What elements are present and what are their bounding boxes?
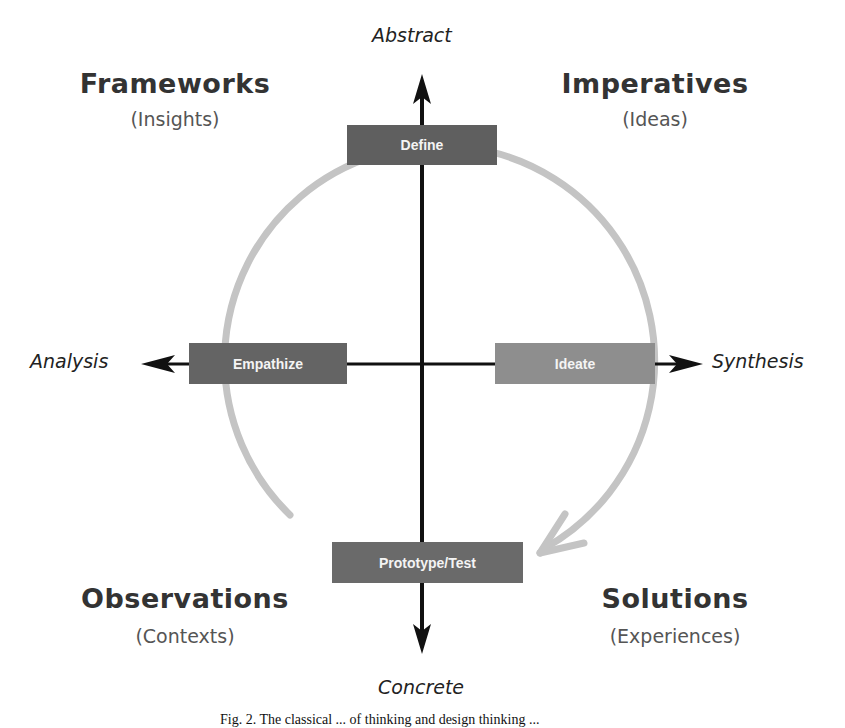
- axis-label-left: Analysis: [30, 350, 108, 372]
- axis-label-top: Abstract: [372, 24, 452, 46]
- axis-label-bottom: Concrete: [378, 676, 464, 698]
- stage-define-label: Define: [401, 137, 444, 153]
- quadrant-subtitle-bottom-right: (Experiences): [560, 625, 790, 647]
- quadrant-subtitle-top-left: (Insights): [60, 108, 290, 130]
- stage-prototype-test-label: Prototype/Test: [379, 555, 476, 571]
- stage-ideate-label: Ideate: [555, 356, 595, 372]
- axis-label-right: Synthesis: [712, 350, 804, 372]
- stage-prototype-test: Prototype/Test: [332, 542, 523, 583]
- quadrant-title-top-left: Frameworks: [60, 68, 290, 99]
- quadrant-title-bottom-right: Solutions: [560, 583, 790, 614]
- figure-caption: Fig. 2. The classical ... of thinking an…: [220, 712, 700, 728]
- quadrant-title-bottom-left: Observations: [40, 583, 330, 614]
- stage-define: Define: [347, 125, 497, 165]
- quadrant-title-top-right: Imperatives: [540, 68, 770, 99]
- stage-empathize: Empathize: [189, 343, 347, 384]
- quadrant-subtitle-bottom-left: (Contexts): [40, 625, 330, 647]
- stage-ideate: Ideate: [495, 343, 655, 384]
- quadrant-subtitle-top-right: (Ideas): [540, 108, 770, 130]
- stage-empathize-label: Empathize: [233, 356, 303, 372]
